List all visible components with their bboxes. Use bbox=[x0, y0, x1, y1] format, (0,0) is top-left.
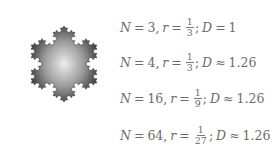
relation-sign: ≈ bbox=[229, 129, 239, 143]
equals-sign: = bbox=[134, 56, 144, 70]
N-symbol: N bbox=[120, 92, 131, 106]
r-fraction: 13 bbox=[186, 17, 194, 38]
D-symbol: D bbox=[210, 92, 220, 106]
equals-sign: = bbox=[171, 56, 181, 70]
denominator: 9 bbox=[194, 99, 202, 109]
D-value: 1.26 bbox=[237, 92, 265, 106]
formula-row: N = 4, r = 13 ; D ≈ 1.26 bbox=[120, 52, 256, 73]
D-symbol: D bbox=[216, 129, 226, 143]
r-fraction: 13 bbox=[186, 52, 194, 73]
equals-sign: = bbox=[134, 92, 144, 106]
comma: , bbox=[163, 92, 167, 106]
N-symbol: N bbox=[120, 21, 131, 35]
N-symbol: N bbox=[120, 56, 131, 70]
denominator: 27 bbox=[194, 136, 208, 146]
comma: , bbox=[155, 21, 159, 35]
formula-row: N = 16, r = 19 ; D ≈ 1.26 bbox=[120, 88, 264, 109]
N-value: 64 bbox=[147, 129, 163, 143]
r-symbol: r bbox=[162, 21, 168, 35]
equals-sign: = bbox=[179, 129, 189, 143]
denominator: 3 bbox=[186, 28, 194, 38]
semicolon: ; bbox=[209, 129, 213, 143]
D-value: 1.26 bbox=[229, 56, 257, 70]
koch-snowflake-image bbox=[14, 8, 114, 120]
r-fraction: 127 bbox=[194, 125, 208, 146]
semicolon: ; bbox=[195, 56, 199, 70]
D-symbol: D bbox=[202, 56, 212, 70]
N-value: 4 bbox=[147, 56, 155, 70]
r-symbol: r bbox=[170, 92, 176, 106]
D-symbol: D bbox=[202, 21, 212, 35]
formula-row: N = 3, r = 13 ; D = 1 bbox=[120, 17, 237, 38]
D-value: 1 bbox=[229, 21, 237, 35]
comma: , bbox=[155, 56, 159, 70]
relation-sign: = bbox=[215, 21, 225, 35]
r-symbol: r bbox=[162, 56, 168, 70]
formula-row: N = 64, r = 127 ; D ≈ 1.26 bbox=[120, 125, 270, 146]
relation-sign: ≈ bbox=[223, 92, 233, 106]
equals-sign: = bbox=[179, 92, 189, 106]
denominator: 3 bbox=[186, 63, 194, 73]
N-value: 3 bbox=[147, 21, 155, 35]
semicolon: ; bbox=[203, 92, 207, 106]
r-symbol: r bbox=[170, 129, 176, 143]
relation-sign: ≈ bbox=[215, 56, 225, 70]
equals-sign: = bbox=[134, 21, 144, 35]
N-symbol: N bbox=[120, 129, 131, 143]
equals-sign: = bbox=[134, 129, 144, 143]
equals-sign: = bbox=[171, 21, 181, 35]
N-value: 16 bbox=[147, 92, 163, 106]
r-fraction: 19 bbox=[194, 88, 202, 109]
semicolon: ; bbox=[195, 21, 199, 35]
D-value: 1.26 bbox=[243, 129, 271, 143]
comma: , bbox=[163, 129, 167, 143]
